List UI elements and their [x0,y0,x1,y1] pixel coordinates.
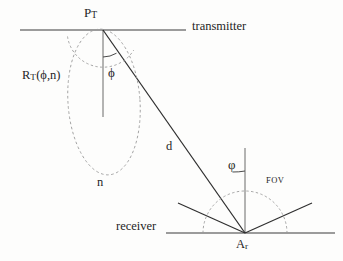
emission-angle-tick-arc [103,53,117,57]
receiver-area-subscript: r [245,241,248,251]
emission-angle-label: ϕ [108,66,115,79]
transmitter-point-subscript: T [91,9,97,20]
fov-ray-right-line [245,203,312,233]
emission-angle-arc [68,37,134,68]
receiver-area-label: Ar [236,238,248,251]
field-of-view-label: FOV [266,176,284,185]
optical-link-diagram: PT transmitter RT(ϕ,n) ϕ n d φ FOV recei… [0,0,343,261]
radiation-pattern-label: RT(ϕ,n) [22,69,60,82]
mode-number-label: n [97,176,103,189]
transmitter-plane-label: transmitter [192,20,246,33]
receiver-area-symbol: A [236,237,245,251]
distance-label: d [166,140,172,153]
receiver-plane-label: receiver [116,220,156,233]
transmitter-point-label: PT [84,6,97,19]
radiation-pattern-arguments: (ϕ,n) [36,68,60,82]
radiation-pattern-subscript: T [30,72,36,82]
radiation-lobe-ellipse [63,27,145,178]
diagram-canvas [0,0,343,261]
incidence-angle-label: φ [228,158,236,171]
